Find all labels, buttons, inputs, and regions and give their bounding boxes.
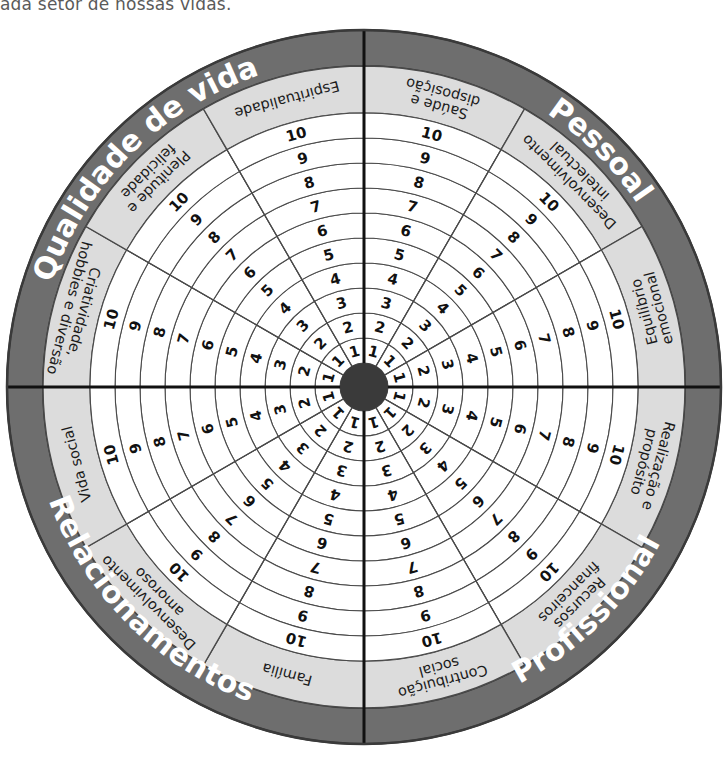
wheel-hub[interactable] [340, 363, 388, 411]
wheel-of-life-svg: 1234567891012345678910123456789101234567… [0, 0, 724, 761]
hub-group [340, 363, 388, 411]
wheel-of-life-diagram: 1234567891012345678910123456789101234567… [0, 0, 724, 761]
